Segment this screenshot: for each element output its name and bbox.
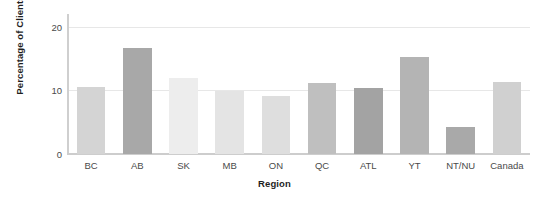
x-tick-label-nt-nu: NT/NU bbox=[446, 160, 475, 171]
x-tick-label-sk: SK bbox=[177, 160, 190, 171]
bar-nt-nu[interactable] bbox=[446, 127, 475, 154]
bar-yt[interactable] bbox=[400, 57, 429, 154]
y-axis-title: Percentage of Clients bbox=[13, 0, 27, 105]
y-tick-label-10: 10 bbox=[51, 85, 62, 96]
x-tick-label-mb: MB bbox=[223, 160, 237, 171]
bar-qc[interactable] bbox=[308, 83, 337, 154]
bar-sk[interactable] bbox=[169, 78, 198, 154]
bar-mb[interactable] bbox=[215, 91, 244, 154]
bar-atl[interactable] bbox=[354, 88, 383, 154]
bar-on[interactable] bbox=[262, 96, 291, 154]
x-tick-label-ab: AB bbox=[131, 160, 144, 171]
x-tick-label-qc: QC bbox=[315, 160, 329, 171]
bar-chart: Percentage of Clients 01020 BCABSKMBONQC… bbox=[0, 0, 549, 201]
bar-bc[interactable] bbox=[77, 87, 106, 154]
bar-ab[interactable] bbox=[123, 48, 152, 154]
x-tick-label-canada: Canada bbox=[490, 160, 523, 171]
plot-area: 01020 BCABSKMBONQCATLYTNT/NUCanada bbox=[68, 14, 530, 154]
y-axis-line bbox=[67, 14, 69, 154]
y-tick-label-20: 20 bbox=[51, 21, 62, 32]
x-tick-label-bc: BC bbox=[84, 160, 97, 171]
gridline-20 bbox=[68, 27, 530, 28]
x-tick-label-atl: ATL bbox=[360, 160, 377, 171]
bar-canada[interactable] bbox=[493, 82, 522, 154]
x-tick-label-on: ON bbox=[269, 160, 283, 171]
x-axis-title: Region bbox=[0, 178, 549, 189]
y-tick-label-0: 0 bbox=[57, 149, 62, 160]
x-tick-label-yt: YT bbox=[408, 160, 420, 171]
